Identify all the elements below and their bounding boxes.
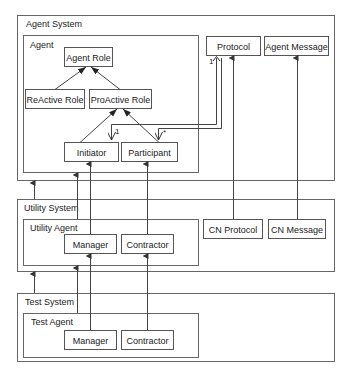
agent-role-label: Agent Role <box>66 53 111 63</box>
test-system-label: Test System <box>25 297 74 307</box>
test-manager-label: Manager <box>73 336 109 346</box>
agent-role-class[interactable]: Agent Role <box>65 48 113 67</box>
test-agent-label: Test Agent <box>31 317 74 327</box>
agent-label: Agent <box>30 40 54 50</box>
proactive-role-label: ProActive Role <box>91 95 151 105</box>
multiplicity-initiator: 1 <box>115 127 120 136</box>
participant-label: Participant <box>128 148 171 158</box>
utility-system-label: Utility System <box>24 203 79 213</box>
cn-message-class[interactable]: CN Message <box>269 220 326 239</box>
protocol-label: Protocol <box>217 42 250 52</box>
agent-message-label: Agent Message <box>265 42 328 52</box>
test-manager-class[interactable]: Manager <box>65 331 117 350</box>
cn-protocol-label: CN Protocol <box>209 225 258 235</box>
agent-system-label: Agent System <box>26 19 82 29</box>
protocol-class[interactable]: Protocol <box>207 37 261 56</box>
reactive-role-label: ReActive Role <box>26 95 83 105</box>
utility-contractor-class[interactable]: Contractor <box>122 235 174 254</box>
agent-message-class[interactable]: Agent Message <box>265 37 329 56</box>
multiplicity-participant: * <box>163 128 166 137</box>
utility-contractor-label: Contractor <box>126 240 168 250</box>
reactive-role-class[interactable]: ReActive Role <box>26 90 85 109</box>
test-contractor-label: Contractor <box>126 336 168 346</box>
utility-manager-label: Manager <box>73 240 109 250</box>
initiator-class[interactable]: Initiator <box>65 143 119 162</box>
proactive-role-class[interactable]: ProActive Role <box>90 90 152 109</box>
participant-class[interactable]: Participant <box>122 143 178 162</box>
multiplicity-protocol: 1 <box>209 57 214 66</box>
cn-protocol-class[interactable]: CN Protocol <box>204 220 263 239</box>
cn-message-label: CN Message <box>271 225 323 235</box>
utility-manager-class[interactable]: Manager <box>65 235 117 254</box>
architecture-diagram: Agent System Agent Agent Role ReActive R… <box>0 0 351 376</box>
initiator-label: Initiator <box>77 148 107 158</box>
utility-agent-label: Utility Agent <box>30 223 78 233</box>
test-contractor-class[interactable]: Contractor <box>122 331 174 350</box>
